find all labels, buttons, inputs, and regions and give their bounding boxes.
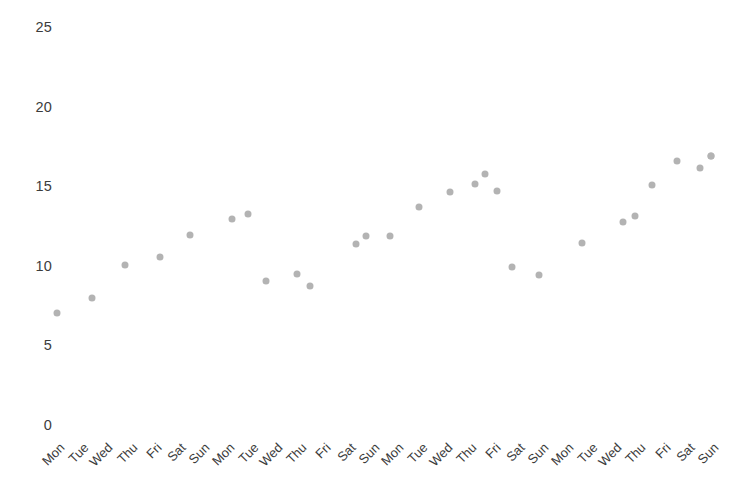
data-point[interactable] (229, 216, 236, 223)
data-point[interactable] (122, 262, 129, 269)
data-point[interactable] (494, 188, 501, 195)
y-tick-label: 20 (24, 99, 52, 115)
scatter-chart: 0510152025 MonTueWedThuFriSatSunMonTueWe… (0, 0, 753, 503)
data-point[interactable] (387, 233, 394, 240)
data-point[interactable] (620, 219, 627, 226)
data-point[interactable] (579, 240, 586, 247)
data-point[interactable] (697, 165, 704, 172)
data-point[interactable] (674, 158, 681, 165)
data-point[interactable] (245, 211, 252, 218)
data-point[interactable] (263, 278, 270, 285)
plot-area: 0510152025 MonTueWedThuFriSatSunMonTueWe… (0, 0, 753, 503)
data-point[interactable] (294, 271, 301, 278)
y-tick-label: 15 (24, 178, 52, 194)
data-point[interactable] (472, 181, 479, 188)
data-point[interactable] (708, 153, 715, 160)
data-point[interactable] (649, 182, 656, 189)
data-point[interactable] (416, 204, 423, 211)
data-point[interactable] (509, 264, 516, 271)
y-tick-label: 10 (24, 258, 52, 274)
y-tick-label: 25 (24, 19, 52, 35)
data-point[interactable] (447, 189, 454, 196)
y-tick-label: 0 (24, 417, 52, 433)
data-point[interactable] (54, 310, 61, 317)
y-tick-label: 5 (24, 337, 52, 353)
data-point[interactable] (632, 213, 639, 220)
data-point[interactable] (187, 232, 194, 239)
data-point[interactable] (363, 233, 370, 240)
data-point[interactable] (307, 283, 314, 290)
data-point[interactable] (353, 241, 360, 248)
data-point[interactable] (536, 272, 543, 279)
data-point[interactable] (482, 171, 489, 178)
data-point[interactable] (89, 295, 96, 302)
data-point[interactable] (157, 254, 164, 261)
